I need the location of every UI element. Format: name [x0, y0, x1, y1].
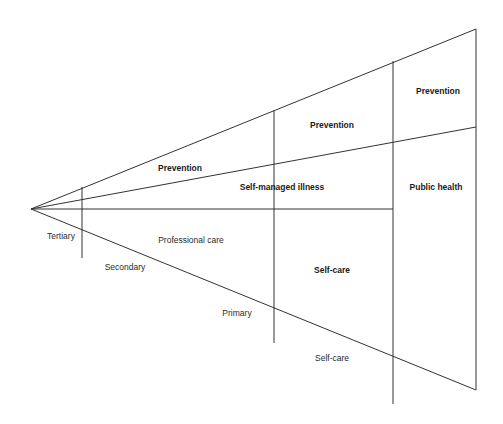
label-professional-care: Professional care	[158, 235, 224, 245]
lower-diagonal-line	[31, 209, 476, 390]
label-self-care-region: Self-care	[314, 265, 350, 275]
label-tertiary: Tertiary	[47, 231, 75, 241]
label-secondary: Secondary	[105, 262, 146, 272]
label-self-managed-illness: Self-managed illness	[240, 182, 325, 192]
label-prevention-middle: Prevention	[310, 120, 354, 130]
label-primary: Primary	[222, 308, 251, 318]
label-prevention-right: Prevention	[416, 86, 460, 96]
label-prevention-left: Prevention	[158, 163, 202, 173]
label-self-care: Self-care	[315, 353, 349, 363]
care-wedge-diagram	[0, 0, 503, 424]
label-public-health: Public health	[410, 182, 463, 192]
diagram-lines	[31, 29, 476, 404]
middle-diagonal-line	[31, 127, 476, 209]
